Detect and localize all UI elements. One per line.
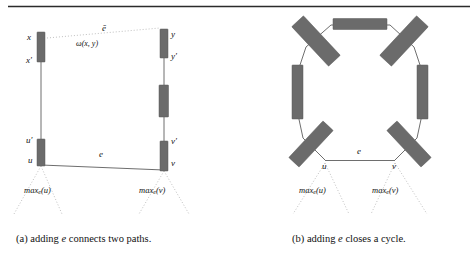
- panel-b-max-v-fn: max: [372, 185, 386, 195]
- panel-a-caption: (a) adding e connects two paths.: [16, 233, 151, 244]
- panel-a-label-u-prime: u′: [26, 136, 32, 145]
- panel-b-caption-suffix: closes a cycle.: [345, 233, 405, 244]
- panel-b-bar-top: [333, 19, 387, 30]
- panel-a-edge-e: [41, 165, 164, 170]
- panel-b-caption-text: adding: [307, 233, 336, 244]
- panel-a-label-v-prime: v′: [171, 137, 177, 146]
- panel-b-label-max-v: maxe(v): [372, 186, 398, 195]
- panel-b-bars: [289, 16, 431, 167]
- panel-b-label-v: v: [392, 162, 396, 171]
- panel-a-label-u: u: [28, 156, 33, 165]
- panel-b-bar-left: [292, 65, 303, 119]
- figure-canvas: [0, 0, 475, 260]
- panel-a-bar-y: [160, 29, 168, 58]
- panel-b-label-e: e: [357, 147, 361, 156]
- panel-a-label-x: x: [27, 33, 31, 42]
- panel-a-caption-text: adding: [30, 233, 59, 244]
- panel-b-max-u-arg: (u): [316, 185, 326, 195]
- panel-a-label-max-v: maxe(v): [139, 186, 165, 195]
- panel-a-bar-middle: [159, 85, 169, 117]
- panel-a-max-v-fn: max: [139, 185, 153, 195]
- panel-a-caption-suffix: connects two paths.: [69, 233, 152, 244]
- panel-a-label-y-prime: y′: [171, 52, 177, 61]
- panel-b-caption-edge: e: [338, 233, 343, 244]
- panel-a-bar-x: [37, 32, 45, 62]
- panel-a-label-e: e: [99, 150, 103, 159]
- panel-a-label-y: y: [171, 30, 175, 39]
- panel-a-max-u-arg: (u): [41, 185, 51, 195]
- panel-a-label-e-bar: ē: [102, 24, 106, 33]
- panel-b-label-max-u: maxe(u): [299, 186, 326, 195]
- panel-a-bar-u: [37, 139, 45, 166]
- panel-a-caption-edge: e: [61, 233, 66, 244]
- panel-a-label-omega: ω(x, y): [76, 40, 98, 48]
- panel-a-caption-prefix: (a): [16, 233, 28, 244]
- panel-b-bar-right: [417, 65, 428, 119]
- figure-root: x x′ u′ u y y′ v′ v ē ω(x, y) e maxe(u) …: [0, 0, 475, 260]
- panel-b-max-u-fn: max: [299, 185, 313, 195]
- panel-a-max-v-arg: (v): [156, 185, 165, 195]
- panel-a-label-v: v: [171, 159, 175, 168]
- panel-a-label-max-u: maxe(u): [24, 186, 51, 195]
- panel-b-label-u: u: [322, 162, 327, 171]
- panel-b-max-v-arg: (v): [389, 185, 398, 195]
- panel-a-bar-v: [160, 141, 168, 171]
- panel-b-caption-prefix: (b): [292, 233, 304, 244]
- panel-a-max-u-fn: max: [24, 185, 38, 195]
- panel-b-caption: (b) adding e closes a cycle.: [292, 233, 406, 244]
- panel-a-label-x-prime: x′: [26, 56, 32, 65]
